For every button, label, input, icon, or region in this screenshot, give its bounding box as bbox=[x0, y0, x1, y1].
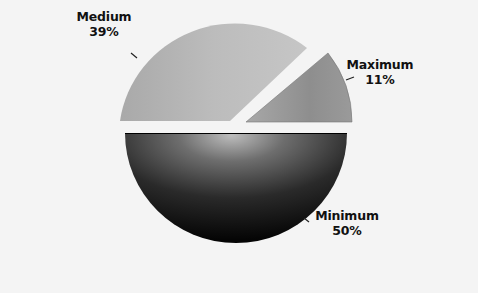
label-minimum-name: Minimum bbox=[312, 208, 382, 223]
label-medium: Medium 39% bbox=[74, 9, 134, 39]
label-maximum-percent: 11% bbox=[345, 72, 415, 87]
pie-chart-graphic bbox=[0, 0, 478, 293]
label-maximum-name: Maximum bbox=[345, 57, 415, 72]
label-medium-percent: 39% bbox=[74, 24, 134, 39]
leader-line-medium bbox=[131, 53, 137, 58]
label-minimum-percent: 50% bbox=[312, 223, 382, 238]
label-minimum: Minimum 50% bbox=[312, 208, 382, 238]
pie-chart: Medium 39% Maximum 11% Minimum 50% bbox=[0, 0, 478, 293]
leader-line-minimum bbox=[304, 218, 309, 222]
label-maximum: Maximum 11% bbox=[345, 57, 415, 87]
label-medium-name: Medium bbox=[74, 9, 134, 24]
